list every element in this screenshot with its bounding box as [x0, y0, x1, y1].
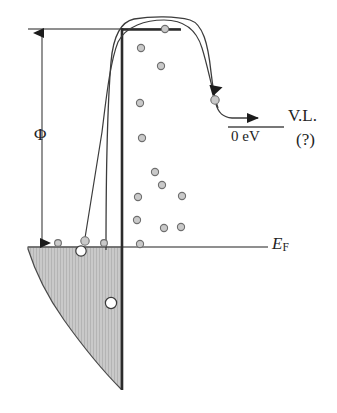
- electron-marker: [137, 44, 144, 51]
- zero-ev-label: 0 eV: [231, 129, 260, 144]
- electron-marker: [158, 181, 165, 188]
- occupied-band-region: [28, 247, 122, 389]
- work-function-label: Φ: [34, 126, 46, 143]
- electron-marker: [136, 240, 143, 247]
- fermi-level-label: EF: [272, 235, 289, 254]
- electron-trajectory-path: [85, 20, 213, 238]
- electron-marker: [161, 25, 168, 32]
- electron-marker: [134, 193, 141, 200]
- electron-marker: [133, 216, 140, 223]
- electron-marker: [81, 237, 89, 245]
- electron-marker: [178, 192, 185, 199]
- electron-marker: [138, 134, 145, 141]
- emitted-electron-path: [216, 104, 258, 118]
- electron-group: [55, 25, 220, 247]
- electron-marker: [55, 240, 62, 247]
- electron-marker: [160, 224, 167, 231]
- hole-marker: [76, 246, 86, 256]
- vacuum-level-query-label: (?): [296, 131, 315, 148]
- fermi-level-subscript: F: [282, 241, 289, 253]
- electron-marker: [211, 96, 219, 104]
- electron-marker: [101, 240, 108, 247]
- energy-level-diagram: Φ EF 0 eV V.L. (?): [0, 0, 337, 413]
- electron-marker: [177, 223, 184, 230]
- electron-marker: [136, 99, 143, 106]
- fermi-level-symbol: E: [272, 234, 282, 253]
- diagram-canvas: [0, 0, 337, 413]
- electron-marker: [157, 62, 164, 69]
- vacuum-level-label: V.L.: [288, 107, 317, 124]
- electron-marker: [151, 168, 158, 175]
- hole-marker: [105, 297, 116, 308]
